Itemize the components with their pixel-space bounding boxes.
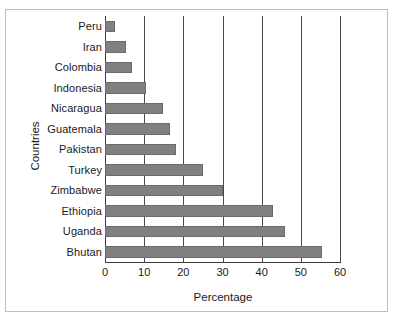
bar-row bbox=[105, 57, 340, 78]
x-tick-label-20: 20 bbox=[163, 266, 203, 279]
x-axis-title: Percentage bbox=[105, 291, 341, 303]
bar-turkey[interactable] bbox=[105, 164, 203, 176]
bar-colombia[interactable] bbox=[105, 62, 132, 74]
x-tick-label-0: 0 bbox=[85, 266, 125, 279]
bar-bhutan[interactable] bbox=[105, 246, 322, 258]
x-axis-tick-labels: 0102030405060 bbox=[0, 266, 394, 282]
bar-pakistan[interactable] bbox=[105, 144, 176, 156]
x-axis-line bbox=[105, 262, 341, 263]
bar-guatemala[interactable] bbox=[105, 123, 170, 135]
bar-chart-figure: PeruIranColombiaIndonesiaNicaraguaGuatem… bbox=[0, 0, 394, 321]
bar-row bbox=[105, 221, 340, 242]
x-tick-label-50: 50 bbox=[281, 266, 321, 279]
bar-row bbox=[105, 201, 340, 222]
plot-area bbox=[105, 16, 340, 262]
bar-row bbox=[105, 37, 340, 58]
bar-row bbox=[105, 119, 340, 140]
bar-zimbabwe[interactable] bbox=[105, 185, 223, 197]
bar-uganda[interactable] bbox=[105, 226, 285, 238]
bar-ethiopia[interactable] bbox=[105, 205, 273, 217]
bar-row bbox=[105, 78, 340, 99]
bar-nicaragua[interactable] bbox=[105, 103, 163, 115]
gridline-60 bbox=[340, 16, 341, 262]
bar-iran[interactable] bbox=[105, 41, 126, 53]
bar-row bbox=[105, 139, 340, 160]
y-axis-title-wrapper: Countries bbox=[18, 16, 34, 262]
bar-indonesia[interactable] bbox=[105, 82, 146, 94]
bar-row bbox=[105, 160, 340, 181]
bar-row bbox=[105, 180, 340, 201]
bar-row bbox=[105, 16, 340, 37]
bar-row bbox=[105, 98, 340, 119]
x-tick-label-30: 30 bbox=[203, 266, 243, 279]
x-tick-label-10: 10 bbox=[124, 266, 164, 279]
x-tick-label-40: 40 bbox=[242, 266, 282, 279]
x-tick-label-60: 60 bbox=[320, 266, 360, 279]
bar-row bbox=[105, 242, 340, 263]
bar-peru[interactable] bbox=[105, 21, 115, 33]
y-axis-title: Countries bbox=[29, 101, 41, 191]
